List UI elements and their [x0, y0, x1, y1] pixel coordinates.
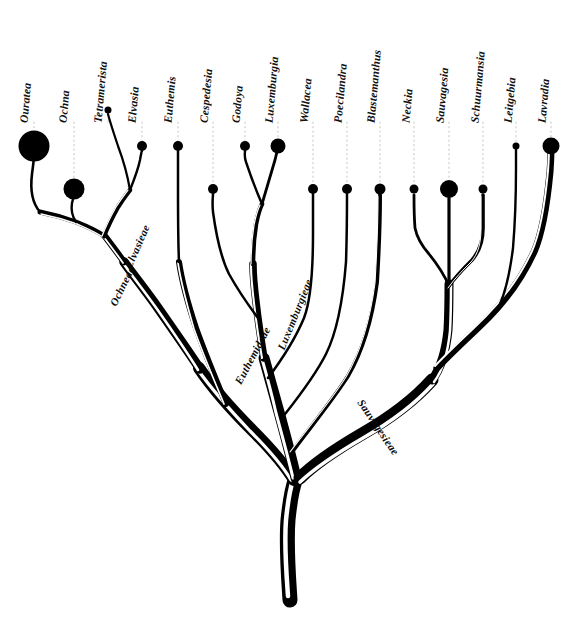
- twig-leitgebia: [500, 147, 516, 304]
- twig-tetramerista: [108, 114, 130, 190]
- node-ochna: [64, 179, 85, 200]
- twig-euthemis: [178, 151, 179, 262]
- node-lavradia: [543, 138, 560, 155]
- node-elvasia: [137, 141, 147, 151]
- node-cespedesia: [208, 184, 218, 194]
- node-poecilandra: [342, 184, 352, 194]
- ochneae-elvasieae-stem-highlight: [103, 236, 123, 263]
- node-wallacea: [308, 184, 318, 194]
- ochneae-elvasieae-stem: [104, 235, 124, 262]
- elvasieae-branch: [104, 190, 130, 236]
- clade-elvasieae: [102, 114, 142, 236]
- twig-ouratea: [31, 155, 40, 212]
- phylogenetic-tree-figure: .limb { fill: none; stroke: #000000; str…: [0, 0, 581, 640]
- twig-luxemburgia: [262, 146, 278, 204]
- trunk: [285, 478, 296, 600]
- twig-lavradia: [437, 147, 551, 368]
- node-sauvagesia: [440, 180, 458, 198]
- node-blastemanthus: [375, 184, 386, 195]
- node-euthemis: [173, 141, 183, 151]
- node-schuurmansia: [479, 185, 488, 194]
- sauvagesieae-limb-lower: [300, 380, 432, 478]
- twig-godoya: [245, 151, 262, 204]
- node-tetramerista: [105, 107, 112, 114]
- node-godoya: [240, 141, 250, 151]
- twig-schuurmansia: [449, 195, 483, 286]
- twig-elvasia: [130, 151, 142, 190]
- node-luxemburgia: [271, 139, 286, 154]
- twig-schuurmansia-highlight: [448, 196, 481, 288]
- node-neckia: [410, 185, 419, 194]
- node-ouratea: [19, 131, 50, 162]
- twig-neckia: [414, 195, 449, 286]
- node-leitgebia: [513, 143, 520, 150]
